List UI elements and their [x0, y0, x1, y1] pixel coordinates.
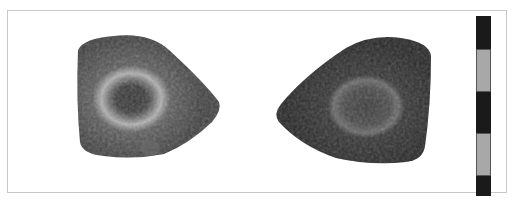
scale-bar-segment	[476, 92, 491, 133]
scale-bar-segment	[476, 49, 491, 92]
scale-bar-segment	[476, 133, 491, 176]
scale-bar-segment	[476, 176, 491, 196]
scale-bar	[476, 16, 491, 196]
artifact-right-image	[271, 34, 436, 166]
artifact-left-view	[74, 32, 224, 162]
artifact-right-view	[271, 34, 436, 166]
artifact-left-image	[74, 32, 224, 162]
scale-bar-segment	[476, 16, 491, 49]
